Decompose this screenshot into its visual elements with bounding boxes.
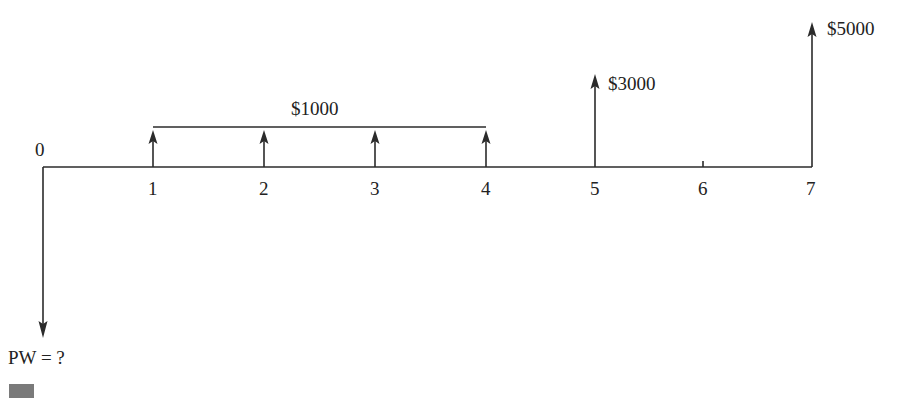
- period-label-0: 0: [35, 139, 45, 160]
- pw-arrow: [39, 167, 48, 338]
- period-label-3: 3: [370, 178, 380, 199]
- flow-5-amount-label: $3000: [608, 73, 656, 94]
- period-label-4: 4: [481, 178, 491, 199]
- cash-flow-diagram: 0 1 2 3 4 5 6 7 $1000 $3000 $5000 PW = ?: [0, 0, 916, 398]
- pw-label: PW = ?: [8, 347, 65, 368]
- cash-flow-arrow-1: [149, 130, 158, 167]
- cash-flow-arrow-3: [371, 130, 380, 167]
- cash-flow-arrow-5: [591, 74, 600, 167]
- period-label-1: 1: [148, 178, 158, 199]
- cash-flow-arrow-4: [482, 130, 491, 167]
- period-label-5: 5: [590, 178, 600, 199]
- cash-flow-arrow-2: [260, 130, 269, 167]
- period-label-2: 2: [259, 178, 269, 199]
- annuity-amount-label: $1000: [291, 98, 339, 119]
- corner-marker: [9, 384, 34, 398]
- cash-flow-arrow-7: [808, 22, 817, 167]
- flow-7-amount-label: $5000: [827, 18, 875, 39]
- period-label-6: 6: [698, 178, 708, 199]
- period-label-7: 7: [806, 178, 816, 199]
